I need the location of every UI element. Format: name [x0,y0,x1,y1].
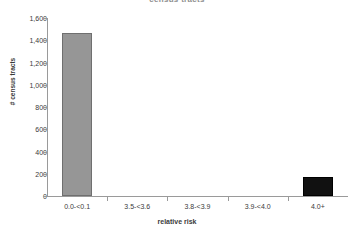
bar-slot [183,18,213,196]
x-tick-label: 3.9-<4.0 [228,203,288,210]
y-tick-mark [43,152,47,153]
x-tick-label: 3.5-<3.6 [107,203,167,210]
x-tick-label: 3.8-<3.9 [167,203,227,210]
bar [303,177,333,196]
y-tick-mark [43,85,47,86]
y-tick-mark [43,174,47,175]
y-tick-mark [43,40,47,41]
chart-title: census tracts [0,0,354,3]
x-tick-label: 0.0-<0.1 [47,203,107,210]
y-axis-tick-labels: 02004006008001,0001,2001,4001,600 [0,0,47,238]
x-axis-title: relative risk [0,218,354,225]
bar-series [47,18,348,196]
x-tick-mark [288,196,289,201]
x-tick-mark [228,196,229,201]
bar-slot [62,18,92,196]
bar-slot [303,18,333,196]
bar-slot [122,18,152,196]
bar-slot [243,18,273,196]
y-tick-mark [43,129,47,130]
x-tick-mark [167,196,168,201]
x-tick-mark [107,196,108,201]
y-tick-mark [43,196,47,197]
y-tick-mark [43,18,47,19]
y-tick-mark [43,63,47,64]
bar [62,33,92,196]
x-axis-line [47,196,348,197]
y-tick-mark [43,107,47,108]
x-tick-label: 4.0+ [288,203,348,210]
bar-chart: census tracts # census tracts 0200400600… [0,0,354,238]
